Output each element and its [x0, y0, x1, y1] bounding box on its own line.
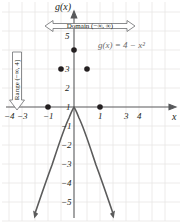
x-tick-label--4: −4	[4, 112, 15, 121]
y-axis-label: g(x)	[55, 2, 71, 12]
range-annotation-text: Range (−∞, 4]	[13, 60, 21, 100]
y-tick-label-1: 1	[66, 103, 71, 112]
x-tick-label--3: −3	[17, 112, 28, 121]
point-right	[84, 66, 90, 72]
axes	[6, 11, 176, 218]
y-tick-label--2: −2	[61, 141, 72, 150]
x-axis-arrow	[169, 104, 176, 110]
point-x-intercept-left	[45, 104, 51, 110]
equation-label: g(x) = 4 − x²	[98, 41, 145, 50]
x-tick-label-4: 4	[137, 112, 142, 121]
x-axis-label: x	[172, 112, 176, 122]
range-annotation: Range (−∞, 4]	[12, 54, 22, 106]
y-tick-label--5: −5	[61, 198, 72, 207]
x-tick-label-3: 3	[124, 112, 129, 121]
x-tick-label-1: 1	[98, 112, 103, 121]
y-tick-label--3: −3	[61, 160, 72, 169]
grid-lines-horizontal	[2, 12, 180, 221]
x-tick-label--1: −1	[43, 112, 54, 121]
y-tick-label--1: −1	[61, 122, 72, 131]
graph-figure: g(x) x g(x) = 4 − x² Domain (−∞, ∞) Rang…	[0, 0, 182, 223]
point-left	[58, 66, 64, 72]
domain-annotation: Domain (−∞, ∞)	[52, 21, 128, 31]
y-tick-label-5: 5	[65, 32, 70, 41]
domain-annotation-text: Domain (−∞, ∞)	[67, 22, 113, 30]
y-tick-label--4: −4	[61, 179, 72, 188]
point-vertex	[71, 47, 77, 53]
point-x-intercept-right	[97, 104, 103, 110]
y-tick-label-3: 3	[65, 65, 70, 74]
y-tick-label-2: 2	[65, 84, 70, 93]
